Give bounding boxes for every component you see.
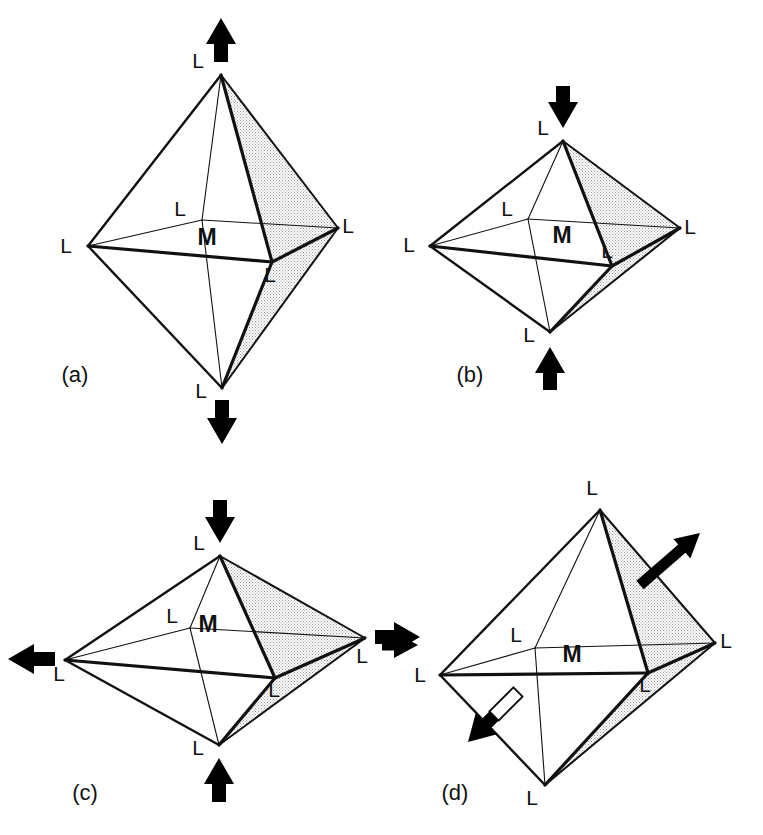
ligand-label-left: L [414,663,426,686]
ligand-label-right: L [684,215,696,238]
metal-center-label: M [552,222,571,248]
ligand-label-left: L [403,233,415,256]
panel-caption-b: (b) [457,362,484,387]
octahedral-distortion-figure: LLLLLLM(a)LLLLLLM(b)LLLLLLM(c)LLLLLLM(d) [0,0,763,835]
ligand-label-bottom: L [192,736,204,759]
metal-center-label: M [562,641,581,667]
ligand-label-left: L [60,234,72,257]
ligand-label-front: L [601,239,613,262]
ligand-label-front: L [268,678,280,701]
ligand-label-bottom: L [523,323,535,346]
ligand-label-top: L [537,116,549,139]
panel-caption-a: (a) [62,362,89,387]
metal-center-label: M [197,224,216,250]
panel-caption-d: (d) [442,780,469,805]
ligand-label-back: L [174,197,186,220]
panel-caption-c: (c) [72,780,98,805]
ligand-label-bottom: L [195,379,207,402]
ligand-label-back: L [501,197,513,220]
ligand-label-back: L [510,623,522,646]
figure-canvas: LLLLLLM(a)LLLLLLM(b)LLLLLLM(c)LLLLLLM(d) [0,0,763,835]
ligand-label-top: L [193,531,205,554]
ligand-label-front: L [639,673,651,696]
figure-background [0,0,763,835]
metal-center-label: M [198,611,217,637]
ligand-label-front: L [264,263,276,286]
ligand-label-back: L [166,604,178,627]
ligand-label-bottom: L [526,786,538,809]
ligand-label-top: L [192,49,204,72]
edge-left-front [440,673,648,675]
ligand-label-right: L [342,214,354,237]
ligand-label-top: L [586,476,598,499]
ligand-label-right: L [720,629,732,652]
ligand-label-right: L [356,644,368,667]
